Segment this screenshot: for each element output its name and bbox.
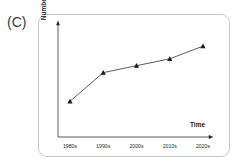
y-axis-arrow-icon bbox=[56, 21, 60, 26]
x-axis-tick-label: 2020s bbox=[196, 143, 210, 149]
data-point-marker bbox=[200, 44, 205, 49]
series-line bbox=[70, 46, 203, 101]
chart-panel-c: (C) Number Time 1980s1990s2000s2010s2020… bbox=[0, 0, 239, 163]
line-chart-plot bbox=[0, 0, 239, 163]
x-axis-tick-label: 1980s bbox=[63, 143, 77, 149]
x-axis-arrow-icon bbox=[209, 135, 214, 139]
x-axis-tick-label: 2000s bbox=[129, 143, 143, 149]
x-axis-title: Time bbox=[190, 121, 205, 128]
x-axis-tick-labels: 1980s1990s2000s2010s2020s bbox=[38, 143, 230, 153]
x-axis-tick-label: 1990s bbox=[96, 143, 110, 149]
y-axis-title: Number bbox=[40, 0, 47, 30]
x-axis-tick-label: 2010s bbox=[163, 143, 177, 149]
series-markers bbox=[67, 44, 205, 104]
